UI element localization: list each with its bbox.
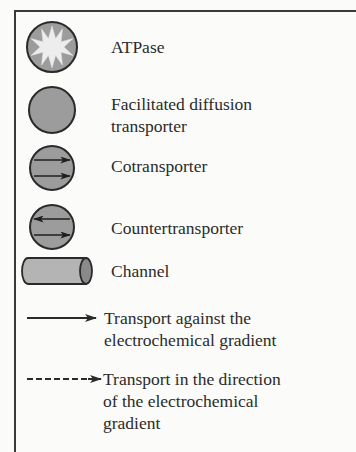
against-gradient-label-line2: electrochemical gradient — [104, 329, 276, 351]
countertransporter-icon — [30, 205, 74, 249]
atpase-icon — [27, 22, 77, 72]
with-gradient-label-line1: Transport in the direction — [103, 368, 281, 390]
channel-label: Channel — [111, 260, 169, 282]
against-gradient-label-line1: Transport against the — [104, 307, 251, 329]
countertransporter-label: Countertransporter — [111, 217, 243, 239]
facilitated-diffusion-icon — [29, 87, 75, 133]
with-gradient-label-line2: of the electrochemical — [103, 390, 258, 412]
with-gradient-label-line3: gradient — [103, 412, 160, 434]
facilitated-diffusion-label-line1: Facilitated diffusion — [111, 93, 252, 115]
atpase-label: ATPase — [111, 36, 164, 58]
channel-icon — [22, 258, 92, 284]
cotransporter-label: Cotransporter — [111, 155, 207, 177]
cotransporter-icon — [30, 146, 74, 190]
facilitated-diffusion-label-line2: transporter — [111, 115, 187, 137]
